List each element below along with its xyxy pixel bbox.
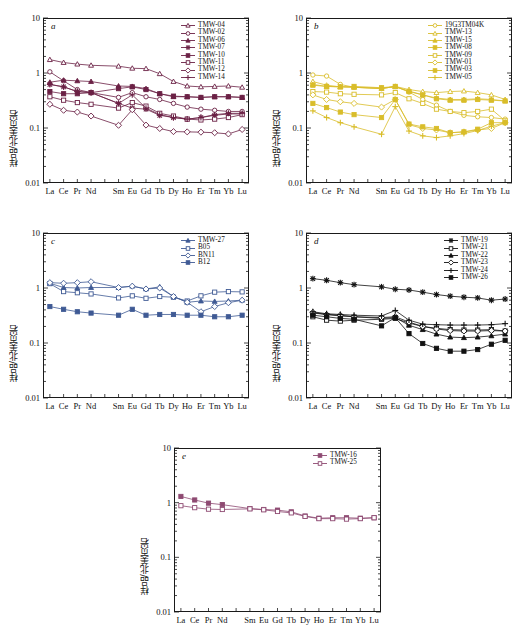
panel-e: e样品/北美页岩1010.10.01LaCePrNdSmEuGdTbDyHoEr… (131, 430, 395, 644)
legend-swatch-e-0 (313, 452, 328, 459)
legend-swatch-a-0 (181, 22, 196, 29)
x-tick-e-lu: Lu (365, 615, 383, 625)
legend-item-b-7[interactable]: TMW-05 (428, 74, 506, 81)
legend-swatch-c-2 (181, 252, 196, 259)
legend-swatch-d-1 (444, 245, 459, 252)
legend-swatch-a-2 (181, 37, 196, 44)
legend-swatch-b-5 (428, 59, 443, 66)
legend-swatch-b-0 (428, 22, 443, 29)
x-tick-d-lu: Lu (496, 401, 514, 411)
legend-swatch-d-0 (444, 237, 459, 244)
legend-e: TMW-16TMW-25 (313, 452, 375, 467)
legend-a: TMW-04TMW-02TMW-06TMW-07TMW-10TMW-11TMW-… (181, 22, 243, 81)
x-tick-c-lu: Lu (233, 401, 251, 411)
legend-item-e-1[interactable]: TMW-25 (313, 459, 375, 466)
legend-label-d-5: TMW-26 (461, 274, 488, 281)
legend-swatch-b-4 (428, 52, 443, 59)
x-tick-b-nd: Nd (345, 186, 363, 196)
legend-item-d-5[interactable]: TMW-26 (444, 274, 506, 281)
panel-d: d样品/北美页岩1010.10.01LaCePrNdSmEuGdTbDyHoEr… (263, 215, 526, 430)
legend-d: TMW-19TMW-21TMW-22TMW-23TMW-24TMW-26 (444, 237, 506, 281)
panel-b: b样品/北美页岩1010.10.01LaCePrNdSmEuGdTbDyHoEr… (263, 0, 526, 215)
legend-swatch-a-1 (181, 30, 196, 37)
x-tick-e-nd: Nd (213, 615, 231, 625)
legend-label-b-7: TMW-05 (445, 74, 472, 81)
legend-item-a-7[interactable]: TMW-14 (181, 74, 243, 81)
legend-swatch-a-3 (181, 44, 196, 51)
legend-item-c-2[interactable]: BN11 (181, 252, 243, 259)
legend-swatch-c-1 (181, 245, 196, 252)
x-tick-c-nd: Nd (82, 401, 100, 411)
legend-swatch-b-1 (428, 30, 443, 37)
legend-swatch-b-2 (428, 37, 443, 44)
legend-swatch-e-1 (313, 460, 328, 467)
legend-swatch-b-3 (428, 44, 443, 51)
legend-swatch-d-3 (444, 259, 459, 266)
legend-swatch-d-5 (444, 274, 459, 281)
legend-swatch-d-4 (444, 267, 459, 274)
legend-item-c-3[interactable]: B12 (181, 259, 243, 266)
legend-swatch-a-4 (181, 52, 196, 59)
legend-swatch-a-7 (181, 74, 196, 81)
legend-label-a-7: TMW-14 (198, 74, 225, 81)
legend-swatch-d-2 (444, 252, 459, 259)
legend-label-c-3: B12 (198, 259, 210, 266)
legend-swatch-b-6 (428, 67, 443, 74)
x-tick-a-lu: Lu (233, 186, 251, 196)
legend-item-c-0[interactable]: TMW-27 (181, 237, 243, 244)
legend-swatch-c-3 (181, 259, 196, 266)
panel-a: a样品/北美页岩1010.10.01LaCePrNdSmEuGdTbDyHoEr… (0, 0, 263, 215)
legend-b: 19G3TM04KTMW-13TMW-15TMW-08TMW-09TMW-01T… (428, 22, 506, 81)
legend-label-e-1: TMW-25 (330, 459, 357, 466)
x-tick-b-lu: Lu (496, 186, 514, 196)
legend-swatch-a-5 (181, 59, 196, 66)
legend-swatch-b-7 (428, 74, 443, 81)
legend-swatch-c-0 (181, 237, 196, 244)
x-tick-d-nd: Nd (345, 401, 363, 411)
x-tick-a-nd: Nd (82, 186, 100, 196)
panel-c: c样品/北美页岩1010.10.01LaCePrNdSmEuGdTbDyHoEr… (0, 215, 263, 430)
legend-swatch-a-6 (181, 67, 196, 74)
ree-spider-diagram-figure: a样品/北美页岩1010.10.01LaCePrNdSmEuGdTbDyHoEr… (0, 0, 526, 644)
legend-c: TMW-27B05BN11B12 (181, 237, 243, 267)
